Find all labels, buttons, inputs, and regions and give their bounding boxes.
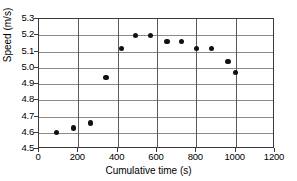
gridline-vertical [157, 19, 158, 147]
data-point [233, 70, 238, 75]
x-axis-tick-mark [117, 148, 118, 152]
y-axis-tick-label: 4.9 [0, 78, 34, 88]
y-axis-tick-label: 4.8 [0, 94, 34, 104]
data-point [225, 59, 230, 64]
x-axis-tick-label: 600 [136, 152, 176, 162]
gridline-horizontal [39, 100, 273, 101]
data-point [133, 33, 138, 38]
x-axis-tick-label: 1200 [254, 152, 294, 162]
y-axis-tick-label: 4.7 [0, 111, 34, 121]
data-point [209, 46, 214, 51]
x-axis-tick-mark [77, 148, 78, 152]
x-axis-tick-label: 800 [175, 152, 215, 162]
y-axis-tick-label: 4.6 [0, 127, 34, 137]
x-axis-tick-mark [195, 148, 196, 152]
data-point [103, 75, 108, 80]
gridline-horizontal [39, 68, 273, 69]
gridline-vertical [236, 19, 237, 147]
gridline-horizontal [39, 133, 273, 134]
data-point [194, 46, 199, 51]
data-point [54, 130, 59, 135]
gridline-vertical [196, 19, 197, 147]
data-point [148, 33, 153, 38]
x-axis-tick-label: 1000 [215, 152, 255, 162]
x-axis-title: Cumulative time (s) [0, 165, 297, 176]
data-point [88, 120, 93, 125]
data-point [179, 39, 184, 44]
y-axis-tick-label: 5.1 [0, 46, 34, 56]
gridline-vertical [118, 19, 119, 147]
x-axis-tick-label: 200 [57, 152, 97, 162]
data-point [71, 125, 76, 130]
x-axis-tick-mark [156, 148, 157, 152]
x-axis-tick-mark [274, 148, 275, 152]
y-axis-tick-label: 5.2 [0, 29, 34, 39]
x-axis-tick-mark [38, 148, 39, 152]
x-axis-tick-label: 400 [97, 152, 137, 162]
x-axis-tick-label: 0 [18, 152, 58, 162]
gridline-horizontal [39, 35, 273, 36]
gridline-horizontal [39, 52, 273, 53]
x-axis-tick-mark [235, 148, 236, 152]
y-axis-tick-label: 5.3 [0, 13, 34, 23]
y-axis-tick-label: 5.0 [0, 62, 34, 72]
plot-area [38, 18, 274, 148]
data-point [164, 39, 169, 44]
gridline-horizontal [39, 84, 273, 85]
gridline-vertical [78, 19, 79, 147]
data-point [119, 46, 124, 51]
scatter-chart-figure: Speed (m/s) 4.54.64.74.84.95.05.15.25.3 … [0, 0, 297, 181]
gridline-horizontal [39, 117, 273, 118]
